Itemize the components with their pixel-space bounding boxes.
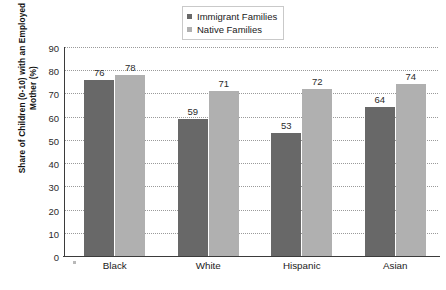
plot-area: 0102030405060708090 7678597153726474 Bla…	[64, 47, 438, 256]
origin-tick-mark	[73, 261, 76, 264]
bar-value-label: 71	[218, 78, 229, 89]
x-axis-category-label: Asian	[383, 260, 408, 271]
y-axis-tick-label: 0	[54, 252, 59, 263]
bar: 76	[84, 80, 114, 256]
y-axis-tick-label: 90	[48, 43, 59, 54]
y-axis-title: Share of Children (0-10) with an Employe…	[17, 0, 39, 178]
y-axis-title-wrapper: Share of Children (0-10) with an Employe…	[15, 0, 41, 178]
bar-group: 7678	[84, 47, 145, 256]
bar: 53	[271, 133, 301, 256]
y-axis-tick-label: 40	[48, 159, 59, 170]
bar-value-label: 72	[312, 76, 323, 87]
bar-group: 6474	[365, 47, 426, 256]
legend-item-native-families: Native Families	[187, 23, 277, 36]
gridline: 0	[65, 256, 438, 257]
bar: 71	[209, 91, 239, 256]
bars-layer: 7678597153726474	[64, 47, 438, 256]
bar: 74	[396, 84, 426, 256]
legend-item-immigrant-families: Immigrant Families	[187, 10, 277, 23]
y-axis-tick-label: 80	[48, 66, 59, 77]
legend-label-native-families: Native Families	[197, 24, 262, 35]
bar-group: 5971	[178, 47, 239, 256]
x-axis-category-label: Black	[103, 260, 127, 271]
bar-value-label: 53	[281, 120, 292, 131]
bar-value-label: 64	[374, 94, 385, 105]
bar-value-label: 76	[94, 67, 105, 78]
bar-value-label: 59	[187, 106, 198, 117]
legend-swatch-immigrant-families	[187, 14, 192, 19]
legend-swatch-native-families	[187, 27, 192, 32]
y-axis-tick-label: 60	[48, 112, 59, 123]
y-axis-tick-label: 10	[48, 228, 59, 239]
bar: 72	[302, 89, 332, 256]
bar-chart: Immigrant Families Native Families Share…	[0, 0, 446, 290]
bar-value-label: 78	[125, 62, 136, 73]
bar-group: 5372	[271, 47, 332, 256]
x-axis-category-label: White	[196, 260, 221, 271]
y-axis-tick-label: 50	[48, 135, 59, 146]
bar: 64	[365, 107, 395, 256]
x-axis-category-label: Hispanic	[283, 260, 321, 271]
y-axis-tick-label: 20	[48, 205, 59, 216]
chart-legend: Immigrant Families Native Families	[182, 6, 284, 40]
bar: 59	[178, 119, 208, 256]
y-axis-tick-label: 30	[48, 182, 59, 193]
bar-value-label: 74	[405, 71, 416, 82]
y-axis-tick-label: 70	[48, 89, 59, 100]
bar: 78	[115, 75, 145, 256]
legend-label-immigrant-families: Immigrant Families	[197, 11, 277, 22]
